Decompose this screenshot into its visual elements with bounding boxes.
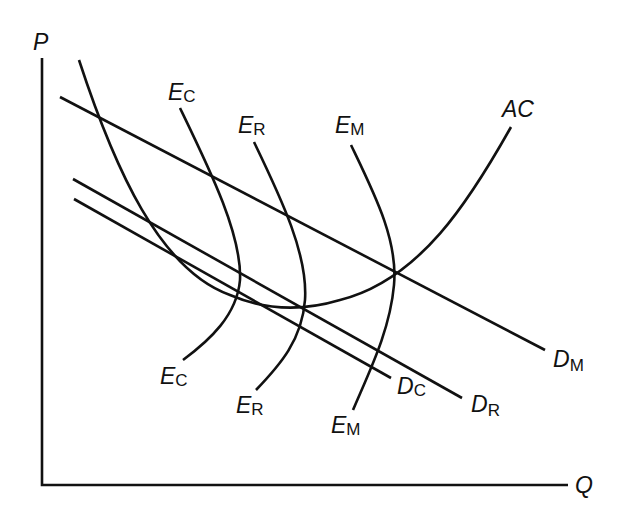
equilibrium-curve-cournot [180, 108, 240, 360]
axes [42, 58, 568, 485]
e-c-top-label: EC [168, 79, 196, 106]
average-cost-curve [79, 60, 511, 308]
e-r-bottom-label: ER [236, 392, 264, 419]
e-c-bottom-label: EC [160, 363, 188, 390]
y-axis-label: P [33, 29, 49, 55]
demand-curve-r [73, 179, 462, 398]
e-m-bottom-label: EM [331, 412, 361, 439]
e-m-top-label: EM [335, 112, 365, 139]
equilibrium-curve-r [254, 142, 305, 390]
demand-curve-cournot [74, 199, 391, 378]
d-r-label: DR [471, 391, 500, 420]
e-r-top-label: ER [238, 112, 266, 139]
x-axis-label: Q [575, 472, 593, 498]
ac-label: AC [500, 96, 534, 122]
equilibrium-curve-monopoly [351, 145, 394, 410]
d-m-label: DM [553, 346, 584, 375]
cost-demand-diagram: P Q AC EC ER EM EC ER EM DM DC DR [0, 0, 619, 517]
d-c-label: DC [397, 373, 426, 400]
